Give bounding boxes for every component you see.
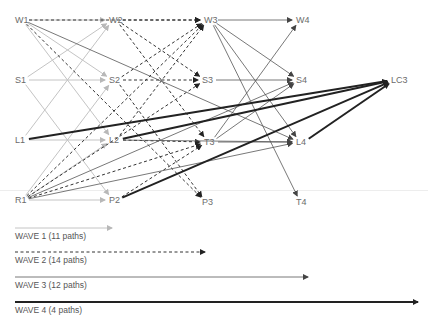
node-t3: T3 [204, 137, 215, 147]
node-lc3: LC3 [391, 75, 408, 85]
node-w2: W2 [109, 15, 123, 25]
edge-wave1-r1-l2 [28, 144, 107, 197]
legend-wave2-label: WAVE 2 (14 paths) [15, 255, 87, 265]
path-diagram [0, 0, 428, 325]
edge-wave3-t3-w4 [215, 26, 296, 138]
node-s2: S2 [109, 75, 120, 85]
legend-wave3-label: WAVE 3 (12 paths) [15, 280, 87, 290]
node-s3: S3 [202, 75, 213, 85]
edge-wave2-r1-t3 [29, 144, 201, 198]
edge-wave4-l2-lc3 [123, 81, 388, 138]
edge-wave3-r1-l4 [29, 143, 292, 198]
edge-wave4-l1-lc3 [29, 81, 387, 139]
node-s4: S4 [296, 75, 307, 85]
node-s1: S1 [15, 75, 26, 85]
edge-wave3-w3-s4 [217, 23, 294, 76]
node-w4: W4 [296, 15, 310, 25]
node-p2: P2 [109, 195, 120, 205]
edge-wave2-w2-s3 [122, 23, 200, 76]
node-l4: L4 [296, 137, 306, 147]
node-l1: L1 [15, 135, 25, 145]
node-r1: R1 [15, 195, 27, 205]
edge-wave2-r1-w3 [27, 25, 203, 196]
node-w1: W1 [15, 15, 29, 25]
edge-wave3-w3-l4 [215, 25, 296, 137]
edges-layer [26, 20, 389, 200]
legend-wave1-label: WAVE 1 (11 paths) [15, 231, 86, 241]
node-w3: W3 [204, 15, 218, 25]
node-t4: T4 [296, 197, 307, 207]
node-p3: P3 [202, 197, 213, 207]
legend-wave4-label: WAVE 4 (4 paths) [15, 305, 82, 315]
node-l2: L2 [109, 135, 119, 145]
